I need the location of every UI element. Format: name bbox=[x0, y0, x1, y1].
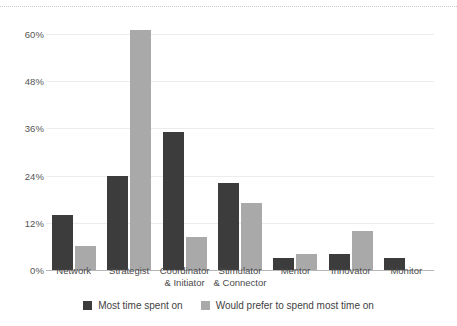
y-tick-label: 60% bbox=[2, 28, 44, 39]
x-axis: NetworkStrategistCoordinator& InitiatorS… bbox=[46, 265, 434, 293]
bar-group bbox=[101, 18, 156, 270]
legend-label: Would prefer to spend most time on bbox=[216, 300, 374, 311]
legend-swatch-icon bbox=[83, 301, 92, 310]
bar bbox=[241, 203, 262, 270]
legend-swatch-icon bbox=[201, 301, 210, 310]
bar bbox=[107, 176, 128, 271]
bar-chart: 0%12%24%36%48%60% NetworkStrategistCoord… bbox=[0, 0, 457, 326]
x-tick-label: Stimulator& Connector bbox=[212, 265, 267, 288]
y-axis: 0%12%24%36%48%60% bbox=[0, 18, 44, 270]
bar-group bbox=[157, 18, 212, 270]
legend-item[interactable]: Most time spent on bbox=[83, 300, 182, 311]
x-tick-label: Monitor bbox=[379, 265, 434, 277]
y-tick-label: 24% bbox=[2, 170, 44, 181]
bar-group bbox=[323, 18, 378, 270]
bar-group bbox=[46, 18, 101, 270]
y-tick-label: 48% bbox=[2, 76, 44, 87]
y-tick-label: 12% bbox=[2, 217, 44, 228]
legend-label: Most time spent on bbox=[98, 300, 182, 311]
bar bbox=[163, 132, 184, 270]
top-dotted-divider bbox=[0, 6, 457, 8]
bar bbox=[130, 30, 151, 270]
x-tick-label: Mentor bbox=[268, 265, 323, 277]
bar bbox=[218, 183, 239, 270]
bar bbox=[52, 215, 73, 270]
bar-group bbox=[268, 18, 323, 270]
bar-group bbox=[379, 18, 434, 270]
y-tick-label: 0% bbox=[2, 265, 44, 276]
plot-area bbox=[46, 18, 434, 270]
chart-legend: Most time spent onWould prefer to spend … bbox=[0, 300, 457, 311]
x-tick-label: Coordinator& Initiator bbox=[157, 265, 212, 288]
y-tick-label: 36% bbox=[2, 123, 44, 134]
x-tick-label: Strategist bbox=[101, 265, 156, 277]
bar-group bbox=[212, 18, 267, 270]
x-tick-label: Network bbox=[46, 265, 101, 277]
legend-item[interactable]: Would prefer to spend most time on bbox=[201, 300, 374, 311]
x-tick-label: Innovator bbox=[323, 265, 378, 277]
